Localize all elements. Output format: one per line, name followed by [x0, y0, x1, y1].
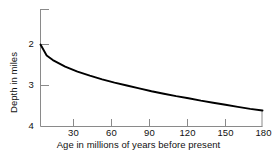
y-axis-title: Depth in miles — [8, 33, 19, 133]
depth-age-curve — [41, 45, 263, 111]
x-axis-title: Age in millions of years before present — [0, 139, 277, 150]
chart-figure: 2 3 4 30 60 90 120 150 180 Age in millio… — [0, 0, 277, 156]
ytick-label-3: 3 — [20, 80, 34, 90]
ytick-label-2: 2 — [20, 39, 34, 49]
xtick-label-150: 150 — [211, 128, 241, 138]
xtick-label-120: 120 — [173, 128, 203, 138]
xtick-label-90: 90 — [135, 128, 165, 138]
xtick-label-180: 180 — [249, 128, 278, 138]
xtick-label-30: 30 — [59, 128, 89, 138]
xtick-label-60: 60 — [97, 128, 127, 138]
ytick-label-4: 4 — [20, 121, 34, 131]
